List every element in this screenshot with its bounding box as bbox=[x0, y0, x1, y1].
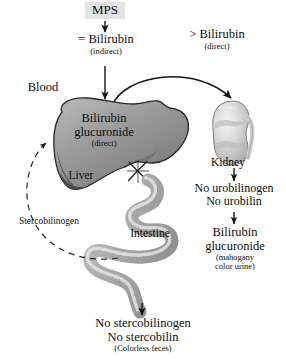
bilirubin-direct-label: > Bilirubin (direct) bbox=[158, 28, 276, 51]
bilirubin-indirect-sub: (indirect) bbox=[48, 47, 164, 56]
mps-label: MPS bbox=[85, 2, 125, 19]
no-urobilin-text: No urobilin bbox=[206, 194, 262, 208]
intestine-text: Intestine bbox=[130, 227, 170, 239]
urine-product-line2: glucuronide bbox=[205, 239, 265, 253]
urine-product-label: Bilirubin glucuronide (mahogany color ur… bbox=[190, 226, 280, 271]
arrow-liver-to-kidney bbox=[112, 77, 231, 106]
liver-text: Liver bbox=[69, 169, 94, 181]
stercobilinogen-label: Stercobilinogen bbox=[1, 216, 97, 226]
liver-contents-line1: Bilirubin bbox=[81, 111, 126, 125]
liver-contents-label: Bilirubin glucuronide (direct) bbox=[58, 112, 150, 148]
bilirubin-direct-text: > Bilirubin bbox=[189, 27, 244, 41]
bilirubin-direct-sub: (direct) bbox=[158, 42, 276, 51]
blood-label: Blood bbox=[16, 81, 70, 95]
intestine-label: Intestine bbox=[118, 227, 182, 239]
kidney-label: Kidney bbox=[203, 156, 253, 168]
stercobilinogen-text: Stercobilinogen bbox=[19, 216, 79, 226]
liver-contents-sub: (direct) bbox=[58, 139, 150, 148]
no-urobilinogen-text: No urobilinogen bbox=[195, 181, 274, 195]
urine-product-sub2: color urine) bbox=[190, 262, 280, 271]
urine-product-line1: Bilirubin bbox=[212, 225, 257, 239]
bilirubin-indirect-label: = Bilirubin (indirect) bbox=[48, 33, 164, 56]
intestine-organ bbox=[88, 178, 172, 312]
feces-product-line1: No stercobilinogen bbox=[95, 316, 190, 330]
mps-text: MPS bbox=[92, 2, 118, 17]
kidney-text: Kidney bbox=[211, 156, 245, 168]
feces-product-label: No stercobilinogen No stercobilin (Color… bbox=[54, 317, 232, 353]
feces-product-line2: No stercobilin bbox=[107, 330, 178, 344]
bilirubin-metabolism-diagram: MPS = Bilirubin (indirect) > Bilirubin (… bbox=[0, 0, 286, 360]
liver-contents-line2: glucuronide bbox=[74, 125, 134, 139]
liver-label: Liver bbox=[57, 169, 105, 181]
no-urobilin-findings-label: No urobilinogen No urobilin bbox=[182, 182, 286, 208]
feces-product-sub: (Colorless feces) bbox=[54, 344, 232, 353]
bilirubin-indirect-text: = Bilirubin bbox=[78, 32, 133, 46]
blood-text: Blood bbox=[28, 80, 59, 94]
